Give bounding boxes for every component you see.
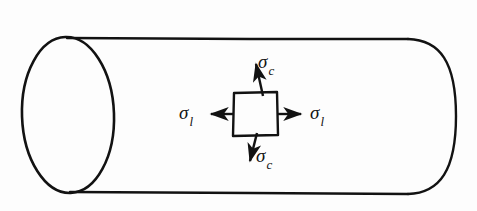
stress-element-square (233, 92, 278, 136)
sigma-subscript: c (266, 157, 272, 172)
label-sigma-c-top: σc (258, 52, 273, 74)
sigma-symbol: σ (310, 102, 319, 123)
sigma-subscript: l (189, 114, 193, 129)
cylinder-right-cap (408, 39, 456, 194)
sigma-subscript: c (268, 63, 274, 78)
cylinder-top-edge (67, 38, 408, 39)
label-sigma-l-right: σl (310, 103, 323, 125)
sigma-symbol: σ (256, 145, 265, 166)
label-sigma-c-bottom: σc (256, 146, 271, 168)
label-sigma-l-left: σl (179, 103, 192, 125)
sigma-symbol: σ (258, 51, 267, 72)
sigma-symbol: σ (179, 102, 188, 123)
cylinder-left-face (19, 35, 116, 194)
figure-canvas: σc σc σl σl (0, 0, 477, 211)
cylinder-stress-diagram (0, 0, 477, 211)
sigma-subscript: l (320, 114, 324, 129)
cylinder-bottom-edge (70, 192, 408, 194)
